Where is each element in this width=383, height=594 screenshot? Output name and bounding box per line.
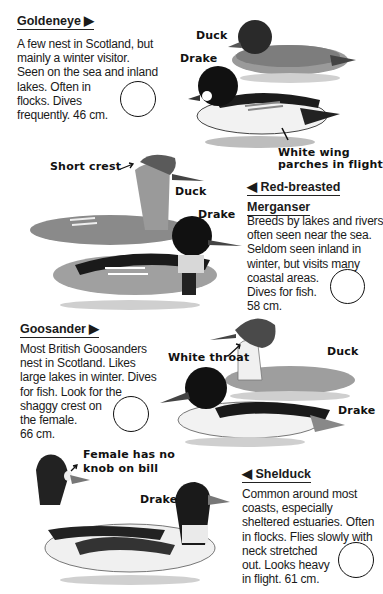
description-line: A few nest in Scotland, but <box>17 37 192 51</box>
description-line: winter, but visits many <box>247 257 382 271</box>
shelduck-female-label-line2: knob on bill <box>83 462 158 475</box>
description-line: 58 cm. <box>247 299 382 313</box>
goldeneye-description: A few nest in Scotland, but mainly a win… <box>17 37 192 122</box>
goosander-throat-label: White throat <box>168 351 249 364</box>
description-line: Seen on the sea and inland <box>17 65 192 79</box>
goldeneye-duck-label: Duck <box>196 29 228 42</box>
description-line: 66 cm. <box>20 427 180 441</box>
description-line: the female. <box>20 413 180 427</box>
goldeneye-drake-label: Drake <box>180 52 217 65</box>
goldeneye-note-line2: parches in flight <box>278 158 383 171</box>
shelduck-drake-label: Drake <box>140 493 177 506</box>
merganser-drake-label: Drake <box>198 208 235 221</box>
description-line: Seldom seen inland in <box>247 242 382 256</box>
merganser-description: Breeds by lakes and rivers often seen ne… <box>247 214 382 313</box>
goosander-duck-label: Duck <box>327 345 359 358</box>
shelduck-heading: ◀ Shelduck <box>242 467 311 483</box>
goosander-heading: Goosander ▶ <box>20 322 99 338</box>
merganser-tick-circle[interactable] <box>330 269 365 304</box>
shelduck-female-head-illustration <box>36 455 90 505</box>
description-line: shaggy crest on <box>20 399 180 413</box>
merganser-duck-label: Duck <box>175 185 207 198</box>
goldeneye-tick-circle[interactable] <box>120 81 156 117</box>
description-line: flocks. Dives <box>17 94 192 108</box>
description-line: Common around most <box>242 487 382 501</box>
description-line: mainly a winter visitor. <box>17 51 192 65</box>
description-line: coasts, especially <box>242 501 382 515</box>
description-line: for fish. Look for the <box>20 385 180 399</box>
merganser-crest-label: Short crest <box>50 160 121 173</box>
description-line: nest in Scotland. Likes <box>20 356 180 370</box>
description-line: lakes. Often in <box>17 80 192 94</box>
description-line: large lakes in winter. Dives <box>20 370 180 384</box>
shelduck-drake-illustration <box>45 482 230 585</box>
goosander-description: Most British Goosanders nest in Scotland… <box>20 342 180 441</box>
merganser-heading-line1: ◀ Red-breasted <box>247 180 340 196</box>
description-line: Breeds by lakes and rivers <box>247 214 382 228</box>
description-line: in flocks. Flies slowly with <box>242 530 382 544</box>
description-line: often seen near the sea. <box>247 228 382 242</box>
description-line: frequently. 46 cm. <box>17 108 192 122</box>
shelduck-female-label-line1: Female has no <box>83 448 175 461</box>
description-line: Most British Goosanders <box>20 342 180 356</box>
female-arrow <box>71 465 77 471</box>
description-line: sheltered estuaries. Often <box>242 515 382 529</box>
goldeneye-duck-illustration <box>228 20 356 83</box>
goosander-tick-circle[interactable] <box>113 396 149 432</box>
shelduck-tick-circle[interactable] <box>338 542 374 578</box>
goldeneye-heading: Goldeneye ▶ <box>17 14 94 30</box>
goosander-drake-label: Drake <box>338 404 375 417</box>
